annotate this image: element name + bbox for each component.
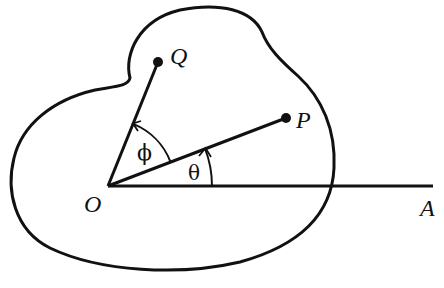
point-p-dot [281, 113, 291, 123]
label-q: Q [170, 43, 187, 69]
region-diagram: Q P O A θ ϕ [0, 0, 444, 288]
label-theta: θ [188, 161, 200, 185]
label-p: P [295, 107, 311, 133]
label-o: O [84, 191, 101, 217]
point-q-dot [153, 57, 163, 67]
label-a: A [418, 195, 435, 221]
label-phi: ϕ [137, 140, 152, 165]
